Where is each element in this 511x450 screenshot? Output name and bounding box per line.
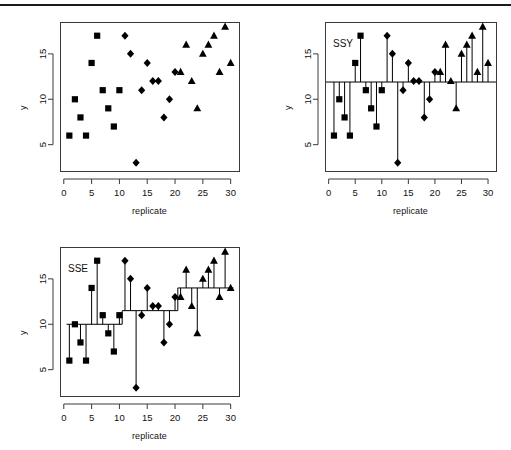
panel-sse: 05101520253051015 SSE replicate y [0, 235, 256, 450]
x-tick-label: 15 [142, 412, 153, 423]
y-tick-label: 15 [302, 49, 313, 60]
x-tick-label: 25 [198, 187, 209, 198]
x-tick-label: 5 [89, 412, 94, 423]
x-tick-label: 30 [225, 187, 236, 198]
y-tick-label: 5 [302, 142, 313, 147]
x-tick-label: 30 [483, 187, 494, 198]
y-tick-label: 15 [37, 49, 48, 60]
y-axis-label-ssy: y [283, 105, 293, 110]
x-tick-label: 0 [61, 412, 66, 423]
x-tick-label: 15 [142, 187, 153, 198]
panel-label-sse: SSE [68, 263, 88, 274]
y-tick-label: 10 [37, 319, 48, 330]
x-tick-label: 25 [198, 412, 209, 423]
x-tick-label: 5 [89, 187, 94, 198]
axis-ticks-ssy: 05101520253051015 [265, 10, 511, 225]
x-tick-label: 5 [353, 187, 358, 198]
y-tick-label: 15 [37, 274, 48, 285]
x-tick-label: 30 [225, 412, 236, 423]
x-tick-label: 25 [456, 187, 467, 198]
x-axis-label-raw: replicate [132, 206, 167, 216]
y-tick-label: 10 [37, 94, 48, 105]
x-tick-label: 0 [61, 187, 66, 198]
y-axis-label-raw: y [18, 105, 28, 110]
y-axis-label-sse: y [18, 330, 28, 335]
y-tick-label: 5 [37, 142, 48, 147]
x-axis-label-ssy: replicate [393, 206, 428, 216]
top-rule [0, 4, 511, 6]
axis-ticks-sse: 05101520253051015 [0, 235, 256, 450]
x-tick-label: 10 [114, 187, 125, 198]
y-tick-label: 10 [302, 94, 313, 105]
x-tick-label: 10 [376, 187, 387, 198]
y-tick-label: 5 [37, 367, 48, 372]
x-axis-label-sse: replicate [132, 431, 167, 441]
x-tick-label: 0 [326, 187, 331, 198]
panel-label-ssy: SSY [333, 38, 353, 49]
x-tick-label: 10 [114, 412, 125, 423]
x-tick-label: 20 [170, 187, 181, 198]
x-tick-label: 20 [430, 187, 441, 198]
axis-ticks-raw: 05101520253051015 [0, 10, 256, 225]
x-tick-label: 15 [403, 187, 414, 198]
panel-ssy: 05101520253051015 SSY replicate y [265, 10, 511, 225]
panel-raw-scatter: 05101520253051015 replicate y [0, 10, 256, 225]
x-tick-label: 20 [170, 412, 181, 423]
